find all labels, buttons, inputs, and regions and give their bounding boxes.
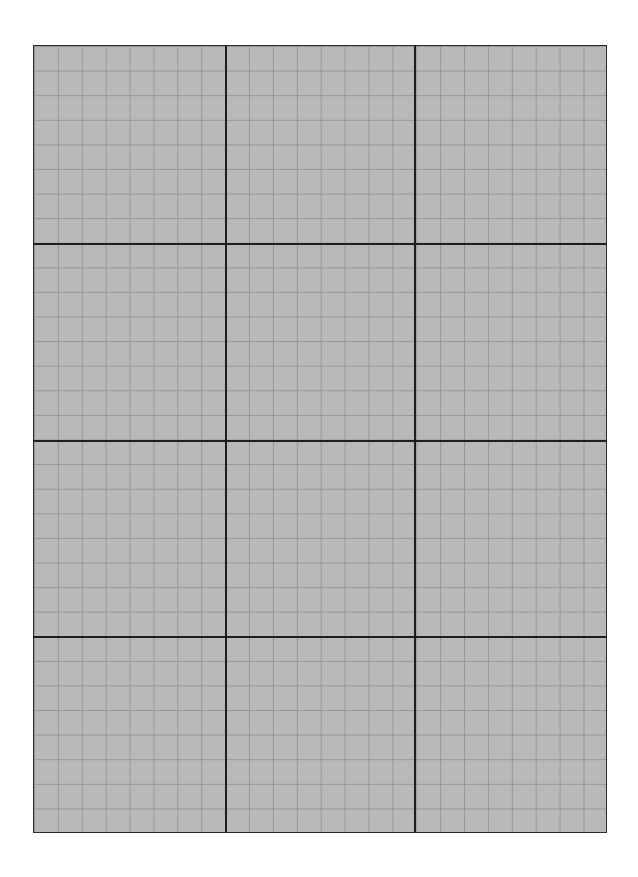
sheet-type: grid-paper: [34, 46, 35, 47]
major-gridline-horizontal-3: [34, 636, 606, 638]
major-gridline-horizontal-2: [34, 440, 606, 442]
major-gridline-vertical-1: [225, 46, 227, 832]
major-gridline-vertical-2: [414, 46, 416, 832]
page: grid-paper: [0, 0, 638, 877]
grid-paper-sheet: grid-paper: [33, 45, 607, 833]
major-gridline-horizontal-1: [34, 243, 606, 245]
